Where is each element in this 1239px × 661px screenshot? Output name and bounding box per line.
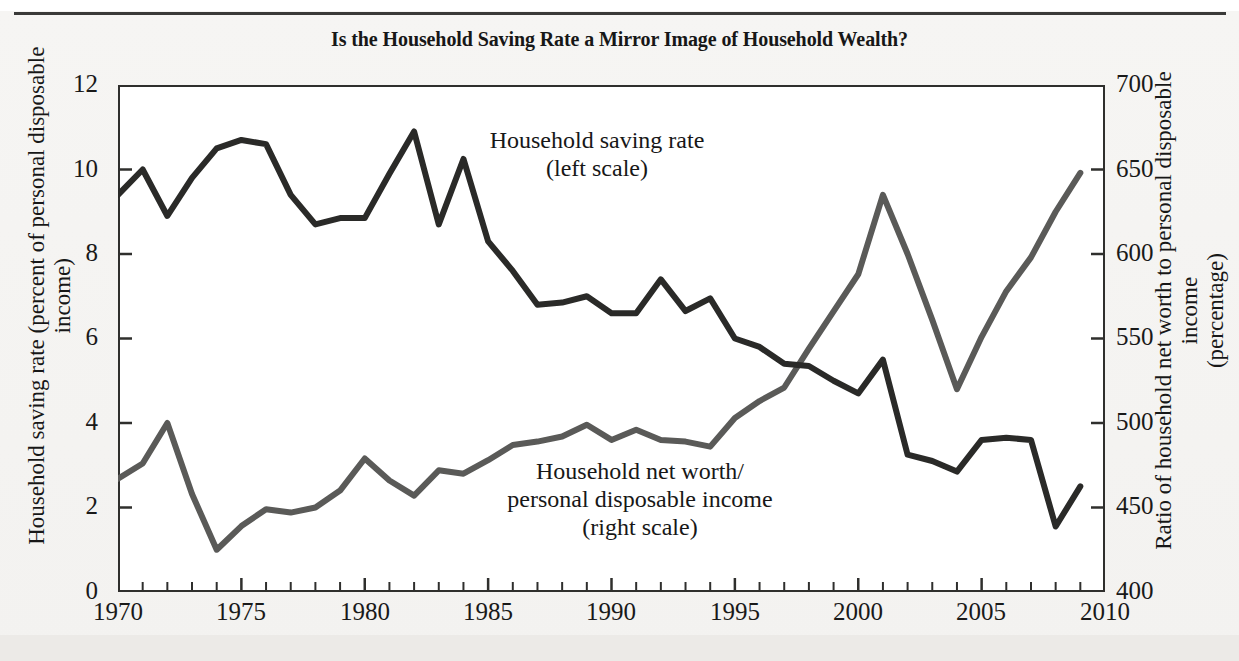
figure-container: Is the Household Saving Rate a Mirror Im…	[0, 0, 1239, 661]
xtick-1980: 1980	[320, 598, 410, 626]
y-axis-left-title: Household saving rate (percent of person…	[24, 36, 76, 556]
xtick-1990: 1990	[566, 598, 656, 626]
xtick-1975: 1975	[196, 598, 286, 626]
top-rule-divider	[14, 12, 1226, 15]
xtick-2010: 2010	[1060, 598, 1150, 626]
xtick-2005: 2005	[936, 598, 1026, 626]
page-title: Is the Household Saving Rate a Mirror Im…	[0, 28, 1239, 51]
minor-xticks	[118, 578, 1105, 592]
xtick-1985: 1985	[443, 598, 533, 626]
annotation-net-worth: Household net worth/ personal disposable…	[470, 458, 810, 541]
xtick-1995: 1995	[690, 598, 780, 626]
major-yticks-left	[118, 85, 132, 592]
xtick-1970: 1970	[73, 598, 163, 626]
annotation-saving-rate: Household saving rate (left scale)	[452, 127, 742, 183]
major-yticks-right	[1091, 85, 1105, 592]
y-axis-right-title: Ratio of household net worth to personal…	[1151, 51, 1228, 571]
bottom-margin-band	[0, 635, 1239, 661]
xtick-2000: 2000	[813, 598, 903, 626]
